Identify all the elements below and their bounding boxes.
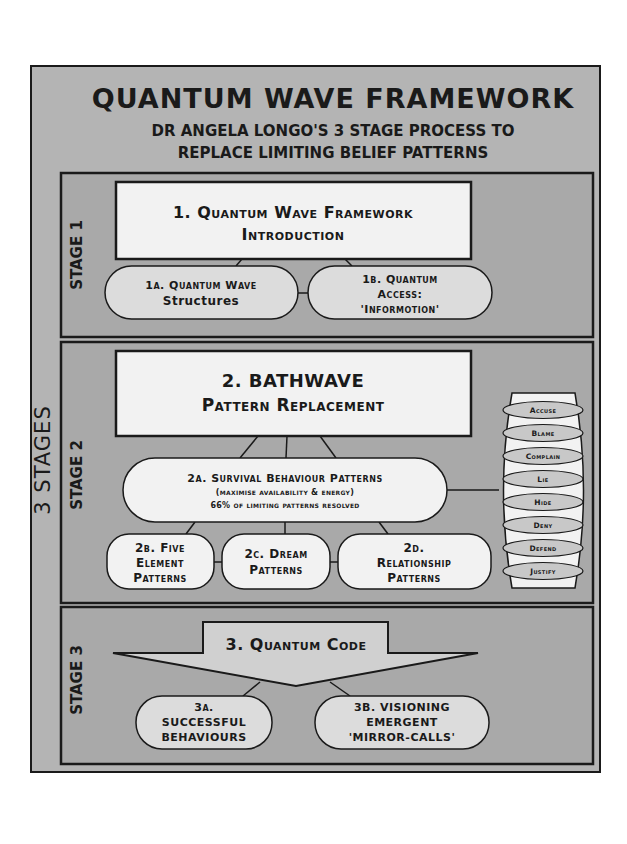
stage-1-main-line-1: 1. Quantum Wave Framework [173, 203, 413, 222]
behaviour-label: Deny [533, 521, 552, 530]
subtitle-line-2: REPLACE LIMITING BELIEF PATTERNS [178, 144, 489, 162]
pill-1b-line-3: 'Informotion' [360, 303, 439, 316]
behaviour-label: Complain [526, 452, 561, 461]
behaviour-accuse[interactable]: Accuse [503, 402, 583, 419]
behaviour-lie[interactable]: Lie [503, 471, 583, 488]
stage-1-main-line-2: Introduction [242, 225, 345, 244]
pill-1b-line-1: 1b. Quantum [362, 273, 438, 286]
pill-2d-line-1: 2d. [403, 541, 424, 555]
pill-2c-line-2: Patterns [249, 563, 303, 577]
pill-1b-line-2: Access: [378, 288, 423, 301]
behaviours-capsule [504, 393, 584, 588]
pill-3b-line-2: Emergent [366, 716, 438, 729]
stage-2: STAGE 2 2. BATHWAVE Pattern Replacement … [61, 342, 593, 603]
pill-2b-line-3: Patterns [133, 571, 187, 585]
behaviour-justify[interactable]: Justify [503, 563, 583, 580]
behaviour-label: Blame [531, 429, 554, 438]
subtitle-line-1: DR ANGELA LONGO'S 3 STAGE PROCESS TO [152, 122, 515, 140]
pill-1a-line-2: Structures [163, 294, 239, 308]
framework-diagram: QUANTUM WAVE FRAMEWORK DR ANGELA LONGO'S… [0, 0, 627, 844]
pill-1a-line-1: 1a. Quantum Wave [145, 279, 257, 292]
pill-3a-line-3: Behaviours [161, 731, 246, 744]
behaviour-label: Defend [529, 544, 556, 553]
stage-2-main-line-2: Pattern Replacement [202, 395, 385, 415]
stage-2-main-box[interactable] [116, 351, 471, 436]
pill-2b-line-2: Element [136, 556, 184, 570]
pill-2d-line-2: Relationship [377, 556, 452, 570]
pill-2b-line-1: 2b. Five [135, 541, 185, 555]
pill-2c[interactable] [222, 534, 330, 589]
pill-3b-line-1: 3b. Visioning [354, 701, 450, 714]
behaviour-label: Accuse [530, 406, 557, 415]
pill-3a-line-1: 3a. [194, 701, 214, 714]
pill-2d-line-3: Patterns [387, 571, 441, 585]
stage-1-label: STAGE 1 [68, 220, 86, 290]
behaviour-defend[interactable]: Defend [503, 540, 583, 557]
stage-2-main-line-1: 2. BATHWAVE [222, 370, 365, 391]
pill-3a-line-2: Successful [162, 716, 246, 729]
behaviour-label: Hide [534, 498, 551, 507]
page-title: QUANTUM WAVE FRAMEWORK [92, 83, 574, 114]
pill-3b-line-3: 'Mirror-Calls' [349, 731, 456, 744]
behaviour-label: Justify [529, 567, 556, 576]
behaviour-complain[interactable]: Complain [503, 448, 583, 465]
pill-2a-line-1: 2a. Survival Behaviour Patterns [187, 472, 382, 485]
behaviour-label: Lie [537, 475, 548, 484]
stage-3: STAGE 3 3. Quantum Code 3a. Successful B… [61, 607, 593, 764]
pill-1a[interactable] [105, 266, 298, 319]
behaviour-deny[interactable]: Deny [503, 517, 583, 534]
stage-1: STAGE 1 1. Quantum Wave Framework Introd… [61, 173, 593, 337]
stage-2-label: STAGE 2 [68, 440, 86, 510]
behaviour-hide[interactable]: Hide [503, 494, 583, 511]
pill-2a-line-2: (maximise availability & energy) [216, 488, 354, 497]
behaviour-blame[interactable]: Blame [503, 425, 583, 442]
three-stages-label: 3 STAGES [31, 405, 55, 514]
stage-3-label: STAGE 3 [68, 645, 86, 715]
pill-2a-line-3: 66% of limiting patterns resolved [210, 501, 359, 510]
stage-3-main-label: 3. Quantum Code [226, 635, 367, 654]
pill-2c-line-1: 2c. Dream [244, 547, 307, 561]
